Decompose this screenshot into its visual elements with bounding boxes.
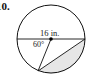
diameter-label: 16 in.	[40, 28, 59, 38]
angle-label: 60°	[33, 40, 44, 49]
circle-diagram: 16 in. 60°	[0, 0, 86, 81]
